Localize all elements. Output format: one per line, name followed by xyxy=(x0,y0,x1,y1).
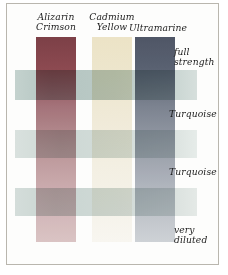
column-heading-ultramarine: Ultramarine xyxy=(127,23,189,33)
column-heading-alizarin-crimson: Alizarin Crimson xyxy=(25,12,87,33)
turquoise-band-2 xyxy=(15,130,197,158)
row-label-turquoise-1: Turquoise xyxy=(169,109,217,119)
turquoise-band-3 xyxy=(15,188,197,216)
row-label-turquoise-2: Turquoise xyxy=(169,167,217,177)
row-label-very-diluted: very diluted xyxy=(174,225,207,246)
swatch-chart-frame: Alizarin Crimson Cadmium Yellow Ultramar… xyxy=(6,3,219,265)
turquoise-band-1 xyxy=(15,70,197,100)
row-label-full-strength: full strength xyxy=(174,47,214,68)
